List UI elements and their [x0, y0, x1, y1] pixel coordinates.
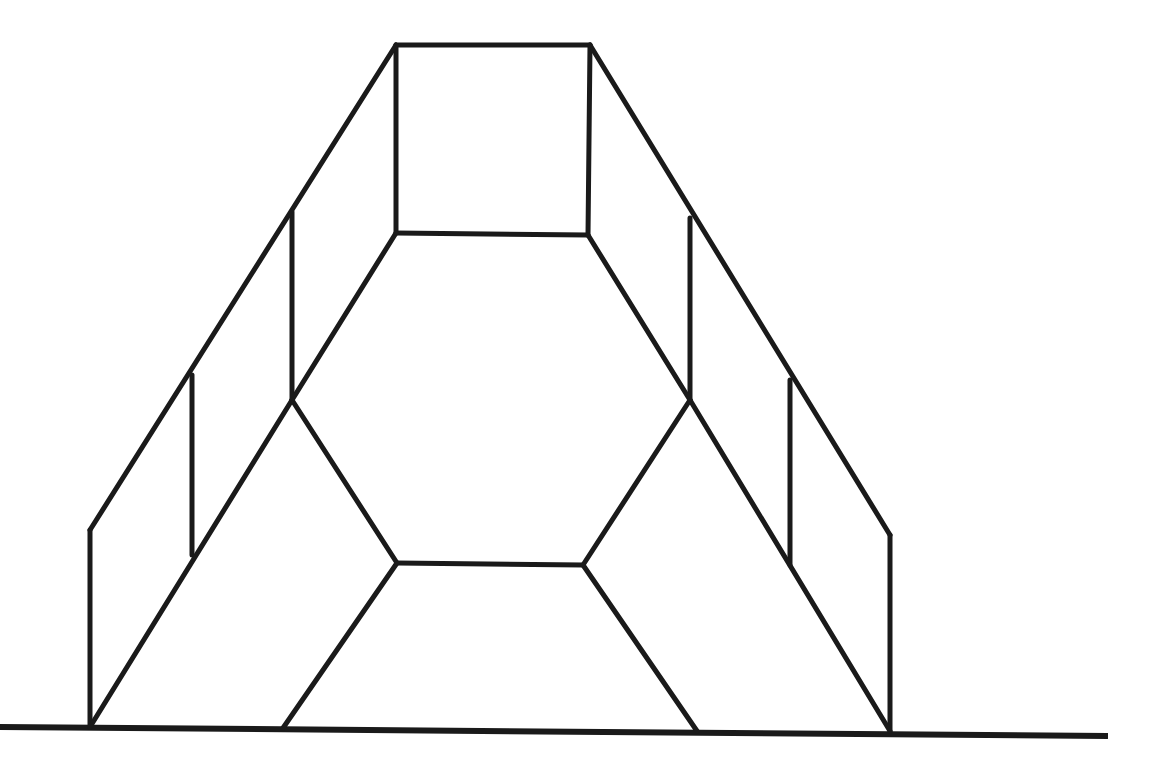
- figure-edge: [397, 563, 583, 565]
- figure-edge: [583, 565, 697, 731]
- figure-edge: [90, 45, 396, 530]
- ground-line: [0, 727, 1108, 736]
- figure-edge: [396, 233, 588, 235]
- figure-edge: [292, 400, 397, 563]
- figure-edge: [292, 233, 396, 400]
- figure-edge: [283, 563, 397, 728]
- figure-edge: [588, 235, 690, 400]
- geometric-figure: [0, 0, 1167, 771]
- figure-edge: [583, 400, 690, 565]
- figure-edge: [590, 45, 890, 535]
- figure-edge: [588, 45, 590, 235]
